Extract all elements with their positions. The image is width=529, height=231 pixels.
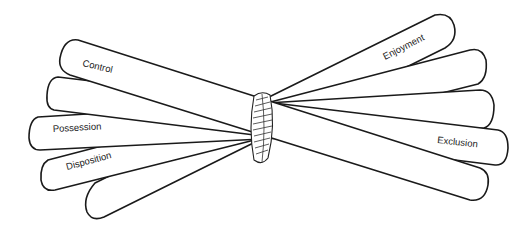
- bundle-of-sticks-diagram: Control Possession Disposition Enjoyment…: [0, 0, 529, 231]
- rope-knot-icon: [251, 93, 273, 163]
